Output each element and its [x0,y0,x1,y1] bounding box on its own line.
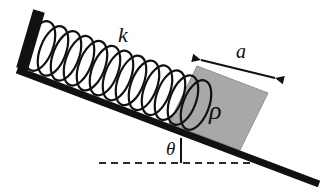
block-width-label: a [236,40,246,62]
physics-diagram-figure: k a ρ θ [0,0,324,196]
incline-angle-label: θ [166,138,175,159]
block-density-label: ρ [208,96,221,125]
spring-constant-label: k [118,22,129,47]
diagram-canvas: k a ρ θ [0,0,324,196]
